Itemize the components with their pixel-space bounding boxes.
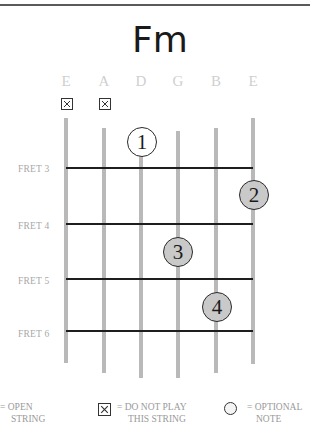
finger-marker-4: 4	[202, 292, 232, 322]
fret-line-6	[66, 330, 253, 332]
string-label-low-e: E	[56, 72, 76, 90]
fret-label-3: FRET 3	[18, 163, 49, 175]
fret-line-5	[66, 278, 253, 280]
legend-optional-line2: NOTE	[256, 414, 281, 425]
guitar-string-a	[102, 128, 106, 373]
top-rule	[0, 4, 310, 6]
guitar-string-d	[139, 150, 143, 378]
finger-marker-1: 1	[127, 127, 157, 157]
legend-optional-line1: = OPTIONAL	[247, 402, 302, 413]
legend-mute-line1: = DO NOT PLAY	[117, 402, 187, 413]
finger-marker-3: 3	[163, 237, 193, 267]
fret-label-4: FRET 4	[18, 220, 49, 232]
guitar-string-high-e	[251, 118, 255, 364]
guitar-string-low-e	[64, 118, 68, 363]
legend-open-line2: STRING	[11, 414, 45, 425]
string-label-high-e: E	[243, 72, 263, 90]
legend-mute-line2: THIS STRING	[128, 414, 186, 425]
mute-x-icon-a	[99, 98, 111, 110]
finger-marker-2: 2	[239, 180, 269, 210]
fret-label-5: FRET 5	[18, 275, 49, 287]
legend-optional-circle-icon	[224, 402, 237, 415]
fret-line-3	[66, 167, 253, 169]
fret-line-4	[66, 223, 253, 225]
string-label-g: G	[168, 72, 188, 90]
fret-label-6: FRET 6	[18, 328, 49, 340]
chord-title: Fm	[0, 20, 310, 60]
mute-x-icon-low-e	[61, 98, 73, 110]
string-label-b: B	[206, 72, 226, 90]
guitar-string-b	[214, 128, 218, 373]
string-label-a: A	[94, 72, 114, 90]
string-label-d: D	[131, 72, 151, 90]
legend-mute-x-icon	[98, 403, 111, 416]
legend-open-line1: = OPEN	[0, 402, 33, 413]
